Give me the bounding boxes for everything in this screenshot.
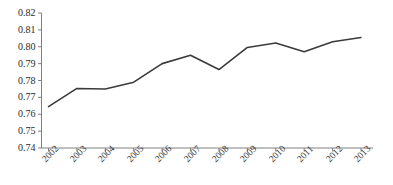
line-chart: 0.740.750.760.770.780.790.800.810.82 200…: [0, 0, 393, 185]
chart-axes: [42, 13, 374, 148]
chart-tick-marks: [38, 13, 361, 152]
y-axis-tick-label: 0.79: [18, 59, 36, 69]
y-axis-tick-label: 0.81: [18, 25, 36, 35]
y-axis-tick-label: 0.76: [18, 109, 36, 119]
y-axis-tick-label: 0.74: [18, 143, 36, 153]
y-axis-tick-label: 0.82: [18, 8, 36, 18]
y-axis-tick-label: 0.80: [18, 42, 36, 52]
chart-series-line: [49, 37, 362, 106]
y-axis-tick-label: 0.77: [18, 92, 36, 102]
y-axis-tick-label: 0.78: [18, 76, 36, 86]
y-axis-tick-label: 0.75: [18, 126, 36, 136]
